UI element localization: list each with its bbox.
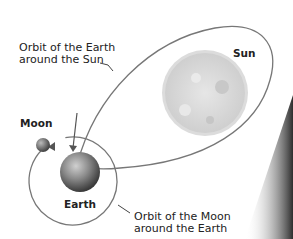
earth-icon [60, 152, 100, 192]
label-sun: Sun [233, 47, 256, 59]
sun-icon [162, 50, 248, 136]
label-earth: Earth [64, 198, 96, 210]
moon-icon [36, 138, 50, 152]
label-moon: Moon [20, 117, 52, 129]
label-moon-orbit-2: around the Earth [134, 223, 227, 235]
label-earth-orbit-2: around the Sun [19, 54, 104, 66]
page-curl-shadow [245, 95, 293, 239]
